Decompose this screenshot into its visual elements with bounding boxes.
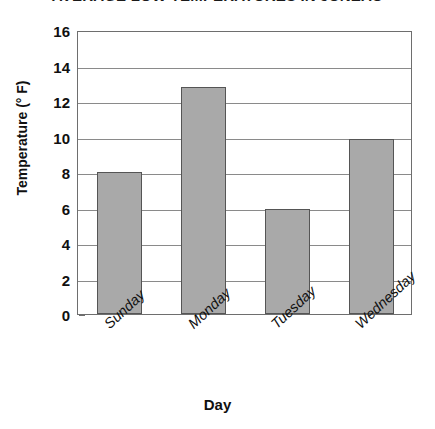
x-axis-title: Day [0, 396, 435, 413]
bar-chart: AVERAGE LOW TEMPERATURES IN JUNEAU Tempe… [0, 0, 435, 429]
y-axis-tick-label: 0 [10, 307, 70, 324]
y-axis-tick-label: 2 [10, 271, 70, 288]
gridline [78, 68, 411, 69]
gridline [78, 103, 411, 104]
y-axis-tick-label: 10 [10, 129, 70, 146]
y-axis-tick-label: 4 [10, 236, 70, 253]
plot-area [77, 31, 412, 315]
y-axis-tick-mark [79, 315, 85, 316]
y-axis-tick-label: 12 [10, 94, 70, 111]
y-axis-tick-label: 16 [10, 23, 70, 40]
chart-title: AVERAGE LOW TEMPERATURES IN JUNEAU [0, 0, 435, 4]
y-axis-tick-label: 6 [10, 200, 70, 217]
y-axis-tick-labels: 0246810121416 [8, 31, 70, 315]
y-axis-tick-label: 8 [10, 165, 70, 182]
bar-monday [181, 87, 226, 314]
y-axis-tick-label: 14 [10, 58, 70, 75]
